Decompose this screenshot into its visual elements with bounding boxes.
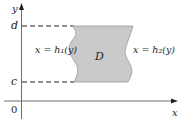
- x-axis-label: x: [172, 107, 178, 118]
- level-c-label: c: [11, 75, 17, 88]
- origin-label: 0: [11, 104, 17, 115]
- left-boundary-label: x = h₁(y): [35, 44, 77, 55]
- right-boundary-label: x = h₂(y): [133, 44, 175, 55]
- region-label: D: [94, 50, 104, 63]
- x-axis-arrow-icon: [171, 99, 178, 104]
- region-diagram: y x 0 d c D x = h₁(y) x = h₂(y): [0, 0, 179, 129]
- y-axis-arrow-icon: [19, 3, 24, 10]
- level-d-label: d: [11, 19, 18, 32]
- y-axis-label: y: [11, 3, 18, 14]
